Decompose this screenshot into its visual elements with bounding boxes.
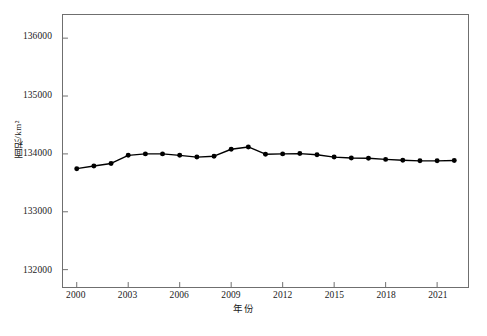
data-point-marker <box>314 152 319 157</box>
data-point-marker <box>383 157 388 162</box>
data-point-marker <box>435 158 440 163</box>
x-tick-label: 2018 <box>377 291 396 301</box>
data-point-marker <box>194 155 199 160</box>
x-tick-label: 2015 <box>325 291 344 301</box>
data-point-marker <box>143 151 148 156</box>
data-point-marker <box>332 155 337 160</box>
x-tick-label: 2000 <box>66 291 85 301</box>
y-tick-label: 135000 <box>23 91 52 101</box>
data-point-marker <box>263 152 268 157</box>
data-point-marker <box>229 147 234 152</box>
y-tick-label: 133000 <box>23 207 52 217</box>
x-axis-tick-labels: 20002003200620092012201520182021 <box>62 291 469 305</box>
data-point-marker <box>212 154 217 159</box>
x-tick-label: 2012 <box>273 291 292 301</box>
line-series-canvas <box>63 15 468 287</box>
x-axis-title: 年份 <box>0 305 487 315</box>
chart-figure: 面积/km² 132000133000134000135000136000 20… <box>0 0 487 336</box>
y-tick-label: 136000 <box>23 33 52 43</box>
data-point-marker <box>400 158 405 163</box>
x-tick-label: 2009 <box>221 291 240 301</box>
y-tick-label: 132000 <box>23 266 52 276</box>
x-tick-label: 2021 <box>428 291 447 301</box>
data-point-marker <box>280 151 285 156</box>
data-point-marker <box>246 144 251 149</box>
x-tick-label: 2006 <box>170 291 189 301</box>
series-line <box>77 147 455 169</box>
data-point-marker <box>91 164 96 169</box>
data-point-marker <box>417 158 422 163</box>
data-point-marker <box>366 156 371 161</box>
y-tick-label: 134000 <box>23 149 52 159</box>
data-point-marker <box>109 161 114 166</box>
data-point-marker <box>177 153 182 158</box>
data-point-marker <box>160 151 165 156</box>
data-point-marker <box>74 166 79 171</box>
x-tick-label: 2003 <box>118 291 137 301</box>
y-axis-tick-labels: 132000133000134000135000136000 <box>0 14 57 288</box>
plot-area <box>62 14 469 288</box>
data-point-marker <box>452 158 457 163</box>
data-point-marker <box>297 151 302 156</box>
data-point-marker <box>349 155 354 160</box>
data-point-marker <box>126 153 131 158</box>
